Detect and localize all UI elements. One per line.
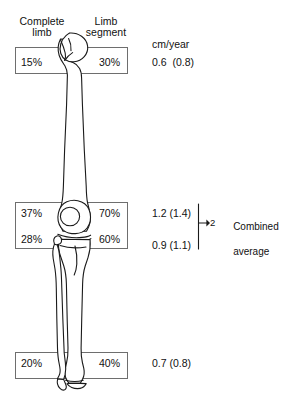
- header-complete-limb: Complete limb: [8, 16, 76, 38]
- combined-average-bracket: [0, 0, 289, 395]
- header-units: cm/year: [152, 39, 189, 50]
- value-complete-limb-proximal-femur: 15%: [21, 57, 42, 68]
- value-complete-limb-proximal-tibia: 28%: [21, 234, 42, 245]
- limb-growth-diagram: Complete limb Limb segment cm/year 15% 3…: [0, 0, 289, 395]
- value-limb-segment-proximal-tibia: 60%: [99, 234, 120, 245]
- value-rate-distal-tibia: 0.7 (0.8): [152, 358, 191, 369]
- divisor-label: 2: [210, 218, 215, 228]
- value-rate-distal-femur: 1.2 (1.4): [152, 208, 191, 219]
- value-rate-proximal-tibia: 0.9 (1.1): [152, 240, 191, 251]
- value-complete-limb-distal-tibia: 20%: [21, 358, 42, 369]
- combined-average-line1: Combined: [233, 221, 279, 232]
- value-limb-segment-distal-femur: 70%: [99, 208, 120, 219]
- value-limb-segment-proximal-femur: 30%: [99, 57, 120, 68]
- value-complete-limb-distal-femur: 37%: [21, 208, 42, 219]
- header-limb-segment: Limb segment: [72, 16, 140, 38]
- value-limb-segment-distal-tibia: 40%: [99, 358, 120, 369]
- value-rate-proximal-femur: 0.6 (0.8): [152, 57, 194, 68]
- combined-average-label: Combined average: [222, 209, 284, 270]
- combined-average-line2: average: [233, 246, 269, 257]
